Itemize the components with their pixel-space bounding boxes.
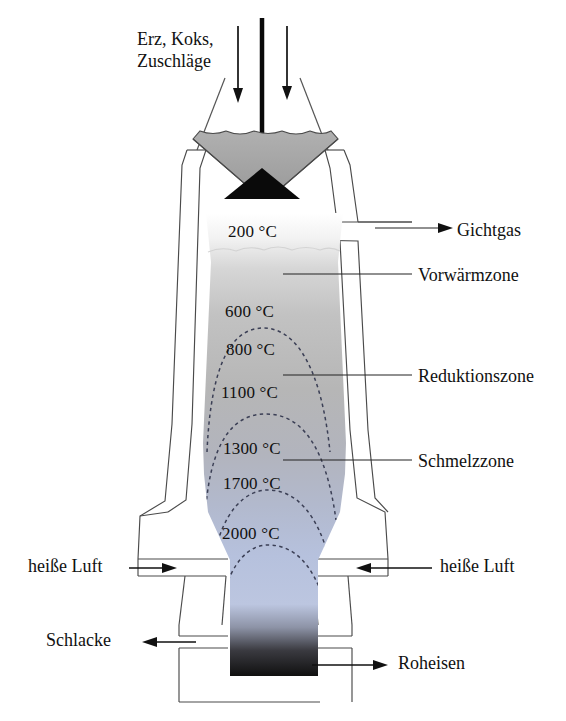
hot-air-right-arrowhead-icon <box>356 563 371 573</box>
slag-tap-arrow <box>142 637 196 647</box>
temp-label-1100: 1100 °C <box>221 383 278 404</box>
label-schmelzzone: Schmelzzone <box>418 451 514 473</box>
charge-arrow-right-icon <box>282 26 292 100</box>
roheisen-arrowhead-icon <box>373 660 388 670</box>
furnace-illustration <box>0 0 566 721</box>
label-heisse-luft-right: heiße Luft <box>440 556 514 578</box>
temp-label-1300: 1300 °C <box>223 439 281 460</box>
label-reduktionszone: Reduktionszone <box>418 366 534 388</box>
feed-label-line2: Zuschläge <box>137 51 211 73</box>
pig-iron-tap-arrow <box>312 660 388 670</box>
temp-label-800: 800 °C <box>226 340 275 361</box>
label-vorwaermzone: Vorwärmzone <box>418 265 519 287</box>
feed-label-line1: Erz, Koks, <box>137 29 213 51</box>
temp-label-600: 600 °C <box>225 302 274 323</box>
temp-label-1700: 1700 °C <box>223 474 281 495</box>
hot-air-left-arrowhead-icon <box>162 563 177 573</box>
temp-label-2000: 2000 °C <box>222 524 280 545</box>
blast-furnace-diagram: 200 °C 600 °C 800 °C 1100 °C 1300 °C 170… <box>0 0 566 721</box>
temp-label-200: 200 °C <box>228 222 277 243</box>
label-heisse-luft-left: heiße Luft <box>28 556 102 578</box>
charge-arrow-left-icon <box>233 26 243 103</box>
slag-arrowhead-icon <box>142 637 157 647</box>
gichtgas-arrowhead-icon <box>438 223 453 233</box>
label-gichtgas: Gichtgas <box>457 220 521 242</box>
label-schlacke: Schlacke <box>46 630 111 652</box>
label-roheisen: Roheisen <box>398 653 465 675</box>
